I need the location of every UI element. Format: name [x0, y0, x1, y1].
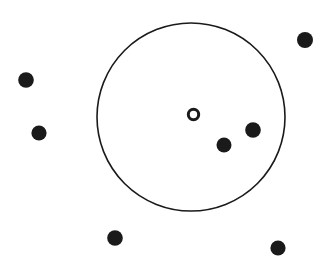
data-point[interactable] — [297, 32, 313, 48]
data-point[interactable] — [245, 122, 261, 138]
center-marker — [188, 109, 198, 119]
canvas-background — [0, 0, 331, 265]
data-point[interactable] — [18, 72, 34, 88]
scatter-plot-svg — [0, 0, 331, 265]
diagram-canvas — [0, 0, 331, 265]
data-point[interactable] — [270, 240, 285, 255]
center-marker-point[interactable] — [188, 109, 198, 119]
data-point[interactable] — [107, 230, 123, 246]
data-point[interactable] — [31, 125, 46, 140]
data-point[interactable] — [217, 138, 232, 153]
